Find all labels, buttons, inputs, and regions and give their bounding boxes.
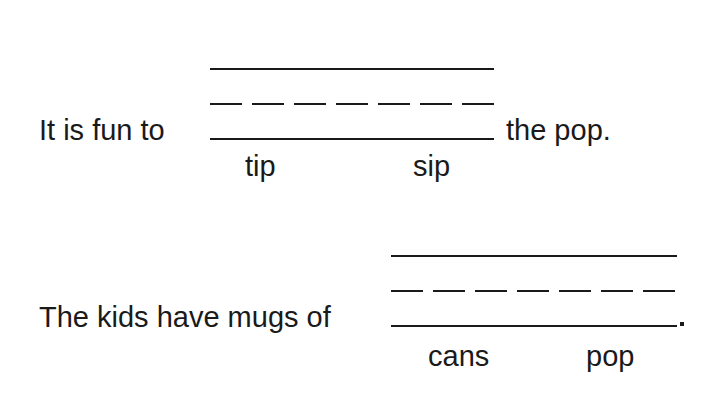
sentence-2-prefix: The kids have mugs of	[39, 303, 331, 332]
sentence-1-prefix: It is fun to	[39, 116, 165, 145]
sentence-1-suffix: the pop.	[506, 116, 611, 145]
writing-line-midline-dashed	[391, 290, 677, 292]
choice-cans[interactable]: cans	[428, 342, 489, 371]
writing-line-top	[210, 68, 494, 70]
writing-line-top	[391, 255, 677, 257]
answer-blank-2[interactable]	[391, 325, 677, 327]
choice-sip[interactable]: sip	[413, 152, 450, 181]
sentence-2-period	[680, 322, 684, 326]
answer-blank-1[interactable]	[210, 138, 494, 140]
choice-tip[interactable]: tip	[245, 152, 276, 181]
choice-pop[interactable]: pop	[586, 342, 634, 371]
writing-line-midline-dashed	[210, 103, 494, 105]
